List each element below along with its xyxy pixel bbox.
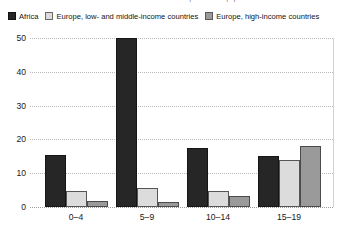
legend-item-europe-low-middle-income[interactable]: Europe, low- and middle-income countries <box>45 12 198 21</box>
plot-right-border <box>333 38 334 207</box>
legend-swatch-icon <box>8 12 16 20</box>
bar[interactable] <box>208 191 229 207</box>
bar[interactable] <box>187 148 208 207</box>
x-axis-tick-label: 15–19 <box>249 213 329 222</box>
y-axis-tick-label: 10 <box>0 169 26 178</box>
bar[interactable] <box>300 146 321 207</box>
bar[interactable] <box>137 188 158 207</box>
legend-swatch-icon <box>205 12 213 20</box>
bar[interactable] <box>258 156 279 207</box>
legend-swatch-icon <box>45 12 53 20</box>
plot-area <box>30 38 333 207</box>
bar-group <box>45 38 108 207</box>
y-axis-tick-label: 0 <box>0 203 26 212</box>
legend-label: Europe, low- and middle-income countries <box>56 12 198 21</box>
chart-legend: Africa Europe, low- and middle-income co… <box>8 9 338 23</box>
bar-group <box>116 38 179 207</box>
bar[interactable] <box>116 38 137 207</box>
chart-figure: Number of deaths from road traffic crash… <box>0 0 340 240</box>
y-axis-tick-label: 40 <box>0 68 26 77</box>
bar-group <box>187 38 250 207</box>
clipped-caption-strip: Number of deaths from road traffic crash… <box>0 0 340 7</box>
legend-label: Europe, high-income countries <box>216 12 319 21</box>
axis-baseline <box>30 207 333 208</box>
y-axis-tick-label: 20 <box>0 135 26 144</box>
bar[interactable] <box>45 155 66 207</box>
legend-label: Africa <box>19 12 38 21</box>
y-axis-tick-label: 30 <box>0 102 26 111</box>
bar[interactable] <box>87 201 108 207</box>
bar[interactable] <box>279 160 300 207</box>
x-axis-tick-label: 5–9 <box>107 213 187 222</box>
y-axis-tick-label: 50 <box>0 34 26 43</box>
bar[interactable] <box>158 202 179 207</box>
legend-item-africa[interactable]: Africa <box>8 12 38 21</box>
x-axis-tick-label: 0–4 <box>36 213 116 222</box>
bar[interactable] <box>229 196 250 207</box>
bar[interactable] <box>66 191 87 207</box>
legend-item-europe-high-income[interactable]: Europe, high-income countries <box>205 12 319 21</box>
x-axis-tick-label: 10–14 <box>178 213 258 222</box>
caption-text: Number of deaths from road traffic crash… <box>62 0 257 1</box>
bar-group <box>258 38 321 207</box>
